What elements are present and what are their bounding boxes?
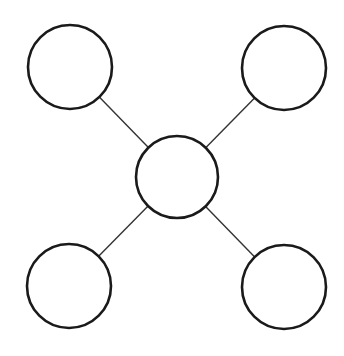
node-top-right (242, 26, 326, 110)
edge-center-to-bottom-right (206, 206, 255, 257)
node-circle (27, 244, 111, 328)
star-network-diagram (0, 0, 344, 356)
nodes-group (27, 25, 326, 329)
node-circle (242, 26, 326, 110)
node-circle (28, 25, 112, 109)
node-center (136, 136, 218, 218)
node-circle (136, 136, 218, 218)
node-bottom-right (242, 245, 326, 329)
node-bottom-left (27, 244, 111, 328)
edge-center-to-top-right (206, 98, 255, 148)
node-circle (242, 245, 326, 329)
edge-center-to-bottom-left (99, 206, 149, 256)
edge-center-to-top-left (99, 97, 148, 148)
node-top-left (28, 25, 112, 109)
